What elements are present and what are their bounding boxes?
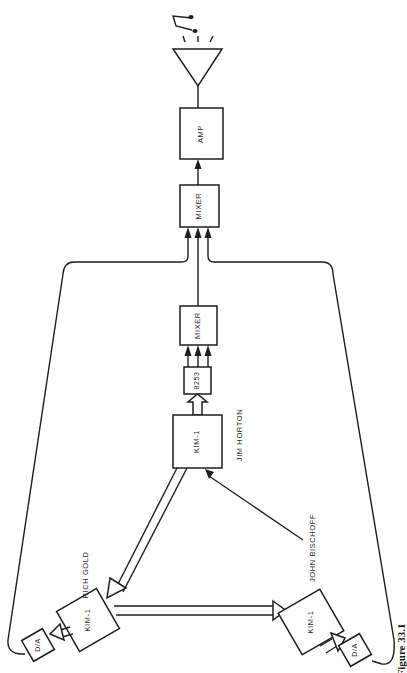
- kim-bischoff-box: KIM-1: [278, 589, 344, 655]
- amp-box: AMP: [180, 108, 223, 159]
- sound-rays-icon: [183, 36, 213, 42]
- gold-to-bischoff-bus: [114, 601, 286, 620]
- mixer-horton-box: MIXER: [180, 306, 217, 345]
- figure-caption: Figure 33.1: [395, 624, 407, 673]
- horton-to-gold-bus: [107, 468, 187, 598]
- music-note-icon: [173, 15, 198, 33]
- amp-label: AMP: [196, 125, 205, 143]
- kim-horton-operator: JIM HORTON: [235, 409, 244, 461]
- kim-horton-label: KIM-1: [192, 430, 201, 453]
- bischoff-to-horton-line: [209, 476, 303, 540]
- kim-gold-operator: RICH GOLD: [81, 551, 90, 598]
- mixer-main-label: MIXER: [194, 193, 203, 220]
- da-bischoff-label: D/A: [351, 643, 358, 656]
- signal-flow-diagram: AMP MIXER MIXER 8253 KIM-1 JIM HORTON: [0, 0, 407, 673]
- speaker-icon: [173, 49, 222, 86]
- kim-gold-label: KIM-1: [83, 608, 92, 631]
- chip-8253-box: 8253: [184, 367, 211, 394]
- kim-bischoff-operator: JOHN BISCHOFF: [308, 514, 317, 582]
- mixer-main-box: MIXER: [180, 185, 219, 227]
- horton-to-8253-bus: [188, 394, 207, 415]
- kim-horton-box: KIM-1: [173, 415, 222, 468]
- kim-bischoff-label: KIM-1: [306, 610, 315, 633]
- da-gold-label: D/A: [34, 638, 41, 651]
- chip-8253-label: 8253: [193, 372, 200, 390]
- mixer-horton-label: MIXER: [193, 312, 202, 339]
